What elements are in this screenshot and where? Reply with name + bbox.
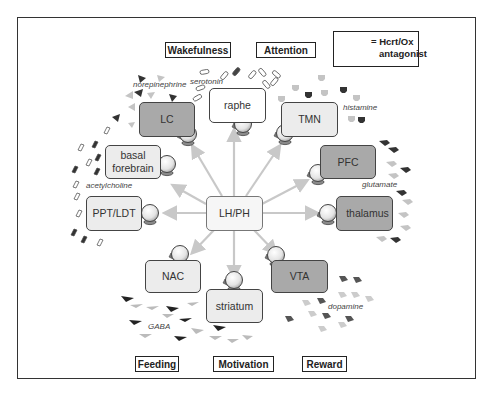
label-attention: Attention xyxy=(256,42,316,58)
antagonist-icon-thalamus xyxy=(317,205,337,225)
node-basal-forebrain: basal forebrain xyxy=(105,145,161,179)
node-pfc: PFC xyxy=(320,145,376,179)
node-tmn: TMN xyxy=(281,102,338,137)
nt-gaba: GABA xyxy=(148,322,170,331)
nt-glutamate: glutamate xyxy=(362,180,397,189)
legend-text: = Hcrt/Ox antagonist xyxy=(371,36,427,60)
node-striatum: striatum xyxy=(206,289,263,323)
node-raphe: raphe xyxy=(209,88,266,123)
label-feeding: Feeding xyxy=(135,356,179,372)
node-ppt-ldt: PPT/LDT xyxy=(86,196,142,231)
nt-histamine: histamine xyxy=(343,103,377,112)
legend-box: = Hcrt/Ox antagonist xyxy=(333,31,419,67)
legend-line-2: antagonist xyxy=(371,48,427,60)
label-motivation: Motivation xyxy=(213,356,274,372)
nt-serotonin: serotonin xyxy=(190,77,223,86)
node-nac: NAC xyxy=(145,260,201,293)
node-basal-forebrain-line1: basal xyxy=(120,149,145,162)
node-basal-forebrain-line2: forebrain xyxy=(112,162,153,175)
node-lh-ph: LH/PH xyxy=(206,196,263,231)
label-wakefulness: Wakefulness xyxy=(165,42,231,58)
node-thalamus: thalamus xyxy=(336,196,393,231)
node-lc: LC xyxy=(139,102,195,137)
legend-line-1: = Hcrt/Ox xyxy=(371,36,427,48)
nt-norepinephrine: norepinephrine xyxy=(133,80,186,89)
nt-acetylcholine: acetylcholine xyxy=(86,181,132,190)
label-reward: Reward xyxy=(302,356,347,372)
nt-dopamine: dopamine xyxy=(328,302,363,311)
node-vta: VTA xyxy=(271,260,328,293)
